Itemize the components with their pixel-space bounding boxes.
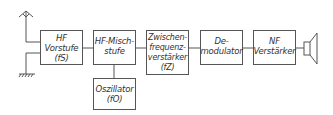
- block-label-line: verstärker: [148, 53, 187, 63]
- block-label-line: Zwischen-: [148, 33, 187, 43]
- block-label-line: (fO): [107, 94, 123, 104]
- block-label-line: frequenz-: [149, 43, 185, 53]
- block-label-line: Verstärker: [253, 46, 295, 56]
- block-label-line: Oszillator: [96, 84, 134, 94]
- block-label-line: Vorstufe: [45, 43, 79, 53]
- block-label-line: NF: [269, 36, 280, 46]
- block-label-line: De-: [214, 36, 228, 46]
- block-label-line: modulator: [200, 46, 242, 56]
- block-label-line: stufe: [104, 46, 124, 56]
- block-hf-mischstufe: HF-Misch- stufe: [93, 30, 136, 65]
- block-label-line: HF: [56, 33, 67, 43]
- block-label-line: (fZ): [161, 63, 175, 73]
- block-demodulator: De- modulator: [200, 30, 243, 65]
- block-hf-vorstufe: HF Vorstufe (fS): [40, 30, 83, 65]
- block-label-line: (fS): [54, 53, 68, 63]
- antenna-icon: [19, 11, 33, 42]
- block-oszillator: Oszillator (fO): [93, 78, 136, 110]
- block-zf-verstaerker: Zwischen- frequenz- verstärker (fZ): [146, 30, 189, 75]
- speaker-icon: [304, 33, 317, 64]
- ground-icon: [19, 53, 40, 77]
- block-label-line: HF-Misch-: [95, 36, 134, 46]
- block-nf-verstaerker: NF Verstärker: [253, 30, 296, 65]
